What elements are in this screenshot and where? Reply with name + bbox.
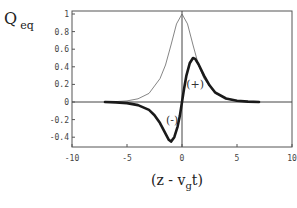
y-tick-label: 0.6	[55, 45, 70, 54]
x-axis-label: (z - vgt)	[151, 172, 203, 188]
annotation-label: (-)	[166, 114, 178, 127]
x-axis-label-sub: g	[185, 180, 191, 191]
y-tick-label: 0.8	[55, 28, 70, 37]
y-tick-label: -0.4	[50, 133, 69, 142]
y-tick-label: 0	[64, 98, 69, 107]
plot-area: 10.80.60.40.20-0.2-0.4-10-50510(+)(-)	[0, 0, 297, 208]
x-axis-label-prefix: (z - v	[151, 172, 185, 188]
x-tick-label: 10	[287, 154, 297, 163]
x-axis-label-suffix: t)	[192, 172, 203, 188]
y-tick-label: -0.2	[50, 116, 69, 125]
x-tick-label: -5	[122, 154, 132, 163]
x-tick-label: -10	[65, 154, 80, 163]
y-tick-label: 0.2	[55, 80, 70, 89]
y-tick-label: 0.4	[55, 63, 70, 72]
x-tick-label: 5	[235, 154, 240, 163]
y-tick-label: 1	[64, 10, 69, 19]
annotation-label: (+)	[186, 78, 204, 91]
x-tick-label: 0	[180, 154, 185, 163]
